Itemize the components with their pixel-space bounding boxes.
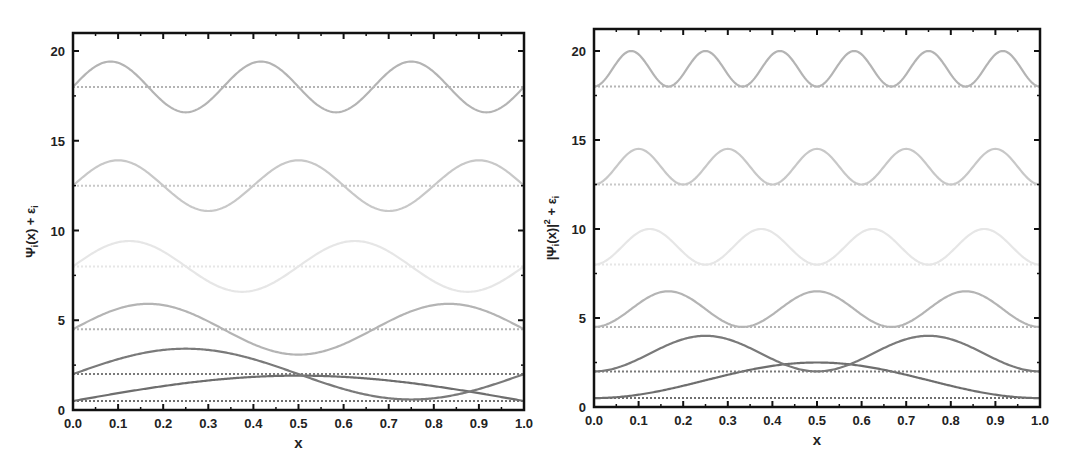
x-tick-label: 0.6 bbox=[853, 413, 871, 428]
x-tick-label: 0.6 bbox=[335, 416, 353, 431]
x-tick-label: 0.0 bbox=[585, 413, 603, 428]
left-chart-panel: 0.00.10.20.30.40.50.60.70.80.91.00510152… bbox=[0, 0, 540, 459]
y-tick-label: 5 bbox=[58, 313, 65, 328]
x-tick-label: 0.2 bbox=[674, 413, 692, 428]
series-curve-n=1 bbox=[73, 376, 524, 401]
series-curve-n=2 bbox=[73, 349, 524, 400]
axis-ticks: 0.00.10.20.30.40.50.60.70.80.91.00510152… bbox=[572, 29, 1050, 428]
x-tick-label: 0.9 bbox=[470, 416, 488, 431]
x-tick-label: 0.3 bbox=[199, 416, 217, 431]
x-tick-label: 0.8 bbox=[942, 413, 960, 428]
x-tick-label: 0.2 bbox=[154, 416, 172, 431]
x-tick-label: 0.8 bbox=[425, 416, 443, 431]
y-tick-label: 0 bbox=[58, 403, 65, 418]
density-curves bbox=[594, 51, 1040, 398]
x-tick-label: 0.0 bbox=[64, 416, 82, 431]
x-tick-label: 0.5 bbox=[808, 413, 826, 428]
x-tick-label: 0.5 bbox=[289, 416, 307, 431]
right-chart-panel: 0.00.10.20.30.40.50.60.70.80.91.00510152… bbox=[540, 0, 1079, 459]
y-tick-label: 5 bbox=[579, 311, 586, 326]
y-axis-label: Ψi(x) + εi bbox=[23, 205, 40, 257]
series-curve-n=4 bbox=[73, 241, 524, 292]
x-tick-label: 0.4 bbox=[244, 416, 263, 431]
series-curve-n=4 bbox=[594, 229, 1040, 265]
y-label-psi: Ψ bbox=[23, 247, 38, 258]
y-axis-label: |Ψi(x)|2 + εi bbox=[542, 196, 561, 261]
x-tick-label: 0.7 bbox=[380, 416, 398, 431]
y-label-psi: |Ψ bbox=[544, 246, 559, 260]
y-label-mid: (x)| bbox=[544, 224, 559, 244]
y-tick-label: 20 bbox=[572, 44, 586, 59]
x-axis-label: x bbox=[294, 434, 303, 451]
wavefunction-curves bbox=[73, 62, 524, 402]
x-tick-label: 0.3 bbox=[719, 413, 737, 428]
y-label-rest: (x) + ε bbox=[23, 208, 38, 245]
y-label-rest: + ε bbox=[544, 198, 559, 219]
x-axis-label: x bbox=[813, 431, 822, 448]
y-tick-label: 15 bbox=[572, 133, 586, 148]
series-curve-n=1 bbox=[594, 363, 1040, 399]
x-tick-label: 1.0 bbox=[515, 416, 533, 431]
x-tick-label: 0.1 bbox=[109, 416, 127, 431]
y-tick-label: 10 bbox=[572, 222, 586, 237]
y-tick-label: 10 bbox=[51, 224, 65, 239]
x-tick-label: 0.7 bbox=[897, 413, 915, 428]
wavefunction-chart: 0.00.10.20.30.40.50.60.70.80.91.00510152… bbox=[0, 0, 540, 459]
y-tick-label: 0 bbox=[579, 400, 586, 415]
series-curve-n=6 bbox=[73, 62, 524, 113]
series-curve-n=5 bbox=[594, 149, 1040, 185]
x-tick-label: 0.9 bbox=[986, 413, 1004, 428]
y-label-subscript2: i bbox=[30, 205, 40, 208]
x-tick-label: 1.0 bbox=[1031, 413, 1049, 428]
series-curve-n=6 bbox=[594, 51, 1040, 87]
series-curve-n=2 bbox=[594, 336, 1040, 372]
x-tick-label: 0.4 bbox=[763, 413, 782, 428]
y-tick-label: 20 bbox=[51, 44, 65, 59]
x-tick-label: 0.1 bbox=[630, 413, 648, 428]
y-label-subscript2: i bbox=[551, 196, 561, 199]
series-curve-n=3 bbox=[594, 291, 1040, 327]
probability-density-chart: 0.00.10.20.30.40.50.60.70.80.91.00510152… bbox=[540, 0, 1079, 459]
y-tick-label: 15 bbox=[51, 134, 65, 149]
